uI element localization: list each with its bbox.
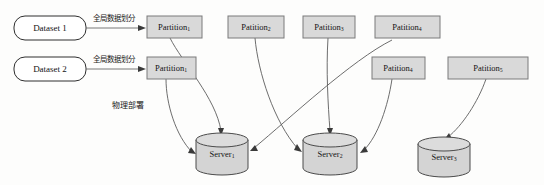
partition-row-top: Partition1 Patition2 Patition3 Patition4	[147, 16, 440, 38]
arrowhead-partition1-bottom	[138, 66, 146, 72]
dataset-1-label: Dataset 1	[33, 23, 67, 33]
deployment-label: 物理部署	[112, 100, 144, 110]
partition-1-top-label: Partition1	[158, 22, 190, 32]
patition-4-top-label: Patition4	[392, 22, 421, 32]
connector-patition2-to-server2	[255, 38, 298, 149]
arrowhead-partition1-top	[138, 25, 146, 31]
edge-label-group: 全局数据划分 全局数据划分 物理部署	[93, 13, 144, 109]
diagram-svg: Dataset 1 Dataset 2 全局数据划分 全局数据划分 物理部署 P…	[0, 0, 544, 185]
arrowhead-server1-left	[188, 147, 196, 154]
partition-row-bottom: Partition1 Patition4 Patition5	[147, 57, 528, 79]
server-2-label: Server2	[317, 149, 342, 159]
server-1[interactable]: Server1	[196, 133, 248, 175]
partition-1-bottom-label: Partition1	[155, 63, 187, 73]
connector-patition5-to-server3	[448, 79, 486, 137]
connector-patition4bottom-to-server2	[364, 79, 392, 150]
partition-label-1: 全局数据划分	[93, 13, 136, 23]
connector-patition4top-to-server1	[254, 40, 392, 148]
dataset-2-label: Dataset 2	[33, 64, 67, 74]
connector-partition1top-to-server1	[170, 38, 221, 131]
server-3-label: Server3	[431, 152, 456, 162]
server-3[interactable]: Server3	[418, 137, 470, 177]
server-2-top-ellipse	[303, 133, 357, 147]
server-1-top-ellipse	[196, 133, 248, 147]
diagram-canvas: Dataset 1 Dataset 2 全局数据划分 全局数据划分 物理部署 P…	[0, 0, 544, 185]
dataset-arrow-layer	[86, 25, 146, 72]
patition-2-label: Patition2	[241, 22, 270, 32]
server-3-top-ellipse	[418, 137, 470, 151]
patition-5-label: Patition5	[473, 63, 502, 73]
server-1-label: Server1	[209, 149, 234, 159]
partition-label-2: 全局数据划分	[93, 54, 136, 64]
server-2[interactable]: Server2	[303, 133, 357, 175]
server-group: Server1 Server2 Server3	[196, 133, 470, 177]
patition-4-bottom-label: Patition4	[383, 63, 412, 73]
dataset-group: Dataset 1 Dataset 2	[14, 16, 86, 81]
connector-partition1bottom-to-server1	[166, 79, 192, 152]
patition-3-label: Patition3	[314, 22, 343, 32]
